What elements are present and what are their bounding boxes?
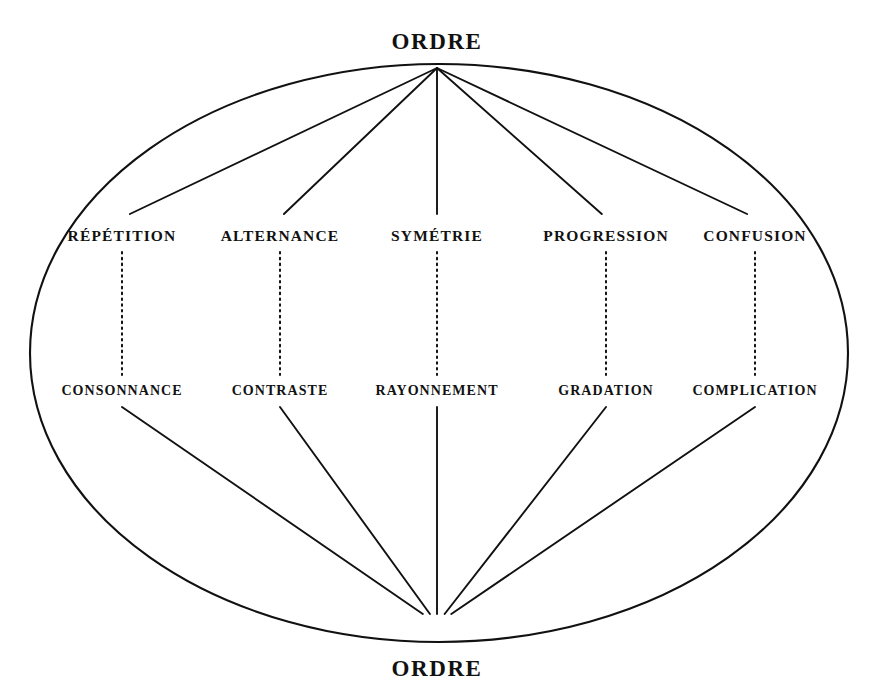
diagram-canvas [0,0,874,696]
upper-node-3: SYMÉTRIE [391,228,483,244]
top-ray-5 [437,68,747,214]
lower-node-5: COMPLICATION [692,384,817,398]
upper-node-2: ALTERNANCE [221,228,340,244]
pole-label-top: ORDRE [391,30,482,53]
bottom-ray-5 [451,407,755,614]
bottom-converging-lines [122,407,755,614]
lower-node-1: CONSONNANCE [61,384,182,398]
lower-node-4: GRADATION [558,384,654,398]
bottom-ray-4 [445,407,606,614]
top-ray-4 [437,68,602,214]
pole-label-bottom: ORDRE [391,657,482,680]
top-ray-1 [130,68,437,214]
bottom-ray-2 [280,407,430,614]
top-radiating-lines [130,68,747,214]
enclosing-ellipse-group [30,64,848,642]
enclosing-ellipse [30,64,848,642]
upper-node-5: CONFUSION [703,228,806,244]
bottom-ray-1 [122,407,423,614]
upper-node-1: RÉPÉTITION [68,228,177,244]
upper-node-4: PROGRESSION [543,228,668,244]
order-diagram: ORDRE ORDRE RÉPÉTITIONALTERNANCESYMÉTRIE… [0,0,874,696]
lower-node-3: RAYONNEMENT [375,384,498,398]
vertical-dotted-connectors [122,252,755,375]
lower-node-2: CONTRASTE [232,384,329,398]
top-ray-2 [284,68,437,214]
